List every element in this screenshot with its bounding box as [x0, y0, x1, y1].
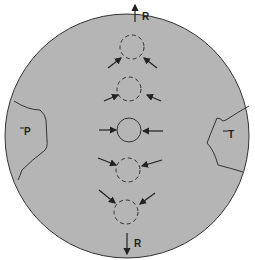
p-region-label: P	[24, 126, 31, 137]
stereonet-disc	[5, 14, 249, 258]
stereonet-diagram: P T R R	[0, 0, 255, 260]
top-r-label: R	[142, 11, 150, 22]
bottom-r-label: R	[134, 238, 142, 249]
t-region-label: T	[228, 129, 234, 140]
